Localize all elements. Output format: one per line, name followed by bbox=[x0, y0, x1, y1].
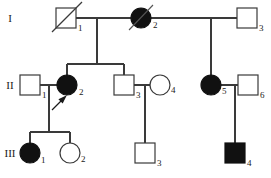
individual-III-1[interactable]: 1 bbox=[20, 143, 46, 165]
individual-id-label: 3 bbox=[136, 90, 141, 100]
proband-arrow-icon bbox=[52, 97, 66, 111]
individual-II-6[interactable]: 6 bbox=[238, 75, 265, 100]
symbol-circle-unaffected[interactable] bbox=[150, 75, 170, 95]
symbol-square-unaffected[interactable] bbox=[20, 75, 40, 95]
pedigree-chart: I II III bbox=[0, 0, 271, 178]
individual-id-label: 1 bbox=[42, 90, 47, 100]
individual-id-label: 2 bbox=[81, 154, 86, 164]
individual-id-label: 2 bbox=[79, 87, 84, 97]
symbol-circle-unaffected[interactable] bbox=[60, 143, 80, 163]
individual-id-label: 3 bbox=[259, 23, 264, 33]
symbol-square-unaffected[interactable] bbox=[135, 143, 155, 163]
individual-I-3[interactable]: 3 bbox=[237, 8, 264, 33]
symbol-square-affected[interactable] bbox=[225, 143, 245, 163]
individual-II-1[interactable]: 1 bbox=[20, 75, 47, 100]
symbol-square-unaffected[interactable] bbox=[238, 75, 258, 95]
generation-label-II: II bbox=[6, 79, 14, 91]
individual-id-label: 4 bbox=[247, 158, 252, 168]
generation-label-III: III bbox=[5, 147, 16, 159]
symbol-square-unaffected[interactable] bbox=[114, 75, 134, 95]
individual-II-5[interactable]: 5 bbox=[201, 75, 227, 96]
symbol-square-unaffected[interactable] bbox=[237, 8, 257, 28]
individual-II-2[interactable]: 2 bbox=[52, 75, 84, 110]
individual-id-label: 5 bbox=[222, 86, 227, 96]
individual-id-label: 1 bbox=[78, 23, 83, 33]
individual-id-label: 6 bbox=[260, 90, 265, 100]
individual-II-3[interactable]: 3 bbox=[114, 75, 141, 100]
individual-II-4[interactable]: 4 bbox=[150, 75, 176, 95]
individual-id-label: 1 bbox=[41, 155, 46, 165]
individual-III-4[interactable]: 4 bbox=[225, 143, 252, 168]
individual-III-3[interactable]: 3 bbox=[135, 143, 162, 168]
pedigree-diagram: I II III bbox=[0, 0, 271, 178]
generation-label-I: I bbox=[8, 12, 12, 24]
symbol-circle-affected[interactable] bbox=[201, 75, 221, 95]
symbol-circle-affected[interactable] bbox=[20, 143, 40, 163]
individual-id-label: 2 bbox=[153, 20, 158, 30]
symbol-circle-affected[interactable] bbox=[57, 75, 77, 95]
individual-id-label: 3 bbox=[157, 158, 162, 168]
individual-id-label: 4 bbox=[171, 85, 176, 95]
individual-III-2[interactable]: 2 bbox=[60, 143, 86, 164]
